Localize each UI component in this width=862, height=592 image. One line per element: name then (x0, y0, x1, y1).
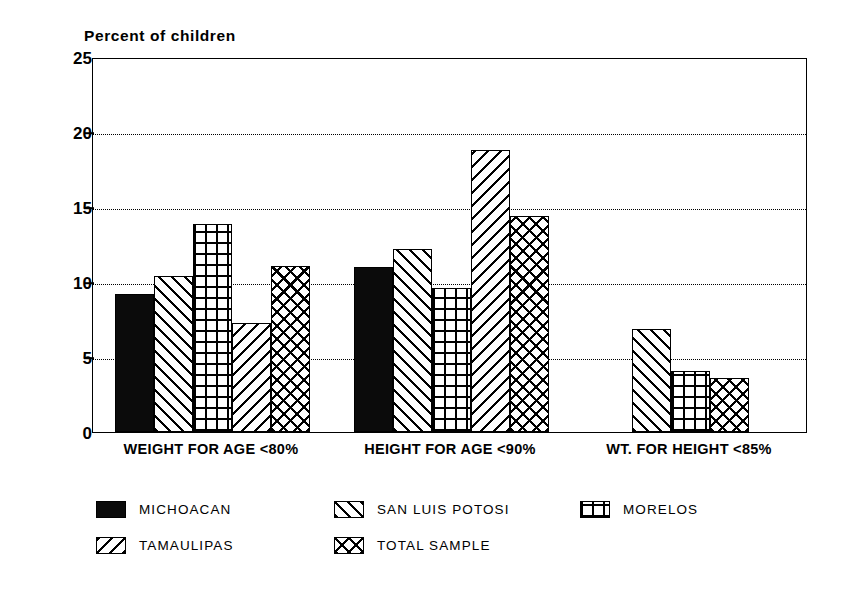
bar-1-tamaulipas (471, 150, 510, 432)
y-tick-mark-5 (84, 357, 94, 359)
x-axis-category-label-1: HEIGHT FOR AGE <90% (364, 441, 536, 457)
y-tick-label-0: 0 (46, 425, 92, 442)
bar-1-morelos (432, 288, 471, 432)
legend-swatch-square-grid-icon (580, 501, 610, 518)
legend-swatch-diagonal-crosshatch-icon (334, 537, 364, 554)
y-axis-title: Percent of children (84, 27, 236, 45)
x-axis-category-label-0: WEIGHT FOR AGE <80% (124, 441, 299, 457)
y-tick-mark-10 (84, 282, 94, 284)
legend-item-tamaulipas: TAMAULIPAS (96, 534, 234, 556)
legend-label: MICHOACAN (139, 502, 231, 517)
legend-label: TAMAULIPAS (139, 538, 234, 553)
legend-item-total-sample: TOTAL SAMPLE (334, 534, 490, 556)
bar-0-tamaulipas (232, 323, 271, 433)
bar-2-san-luis-potosi (632, 329, 671, 433)
legend-item-san-luis-potosi: SAN LUIS POTOSI (334, 498, 510, 520)
y-tick-mark-15 (84, 207, 94, 209)
legend-swatch-back-diagonal-icon (96, 537, 126, 554)
legend-item-michoacan: MICHOACAN (96, 498, 231, 520)
bar-chart-figure: Percent of children 0510152025 WEIGHT FO… (0, 0, 862, 592)
y-tick-mark-20 (84, 132, 94, 134)
legend-item-morelos: MORELOS (580, 498, 698, 520)
bar-0-michoacan (115, 294, 154, 432)
bar-2-total-sample (710, 378, 749, 432)
bar-1-total-sample (510, 216, 549, 432)
legend-label: TOTAL SAMPLE (377, 538, 490, 553)
bar-0-total-sample (271, 266, 310, 433)
bar-1-michoacan (354, 267, 393, 432)
y-tick-label-25: 25 (46, 50, 92, 67)
legend-swatch-forward-diagonal-icon (334, 501, 364, 518)
y-axis: 0510152025 (0, 0, 92, 592)
bar-0-san-luis-potosi (154, 276, 193, 432)
gridline-20 (93, 134, 806, 135)
chart-legend: MICHOACANSAN LUIS POTOSIMORELOSTAMAULIPA… (96, 498, 756, 568)
bar-1-san-luis-potosi (393, 249, 432, 432)
legend-label: SAN LUIS POTOSI (377, 502, 510, 517)
bar-0-morelos (193, 224, 232, 433)
x-axis-category-label-2: WT. FOR HEIGHT <85% (606, 441, 772, 457)
plot-area (92, 58, 807, 433)
legend-label: MORELOS (623, 502, 698, 517)
legend-swatch-solid-black-icon (96, 501, 126, 518)
bar-2-morelos (671, 371, 710, 433)
gridline-15 (93, 209, 806, 210)
